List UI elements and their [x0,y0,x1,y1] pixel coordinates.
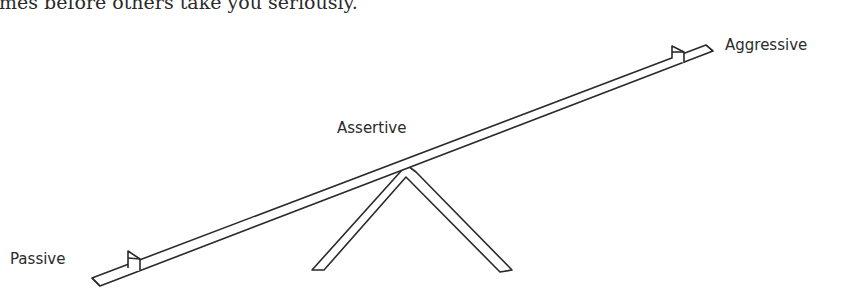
seesaw-diagram [0,0,843,288]
label-aggressive: Aggressive [725,36,807,54]
left-stopper [128,251,140,271]
seesaw-plank [92,45,713,286]
label-assertive: Assertive [337,119,406,137]
fulcrum [312,166,512,272]
label-passive: Passive [10,250,65,268]
